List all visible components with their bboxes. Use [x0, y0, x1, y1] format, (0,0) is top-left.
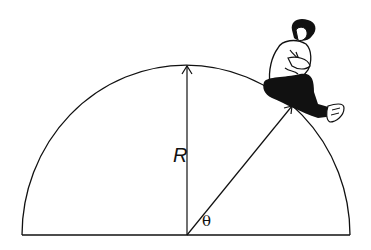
radius-label: R — [173, 144, 187, 167]
person-figure-icon — [263, 19, 344, 122]
hemisphere-diagram — [0, 0, 371, 250]
angle-theta-label: θ — [202, 212, 211, 230]
